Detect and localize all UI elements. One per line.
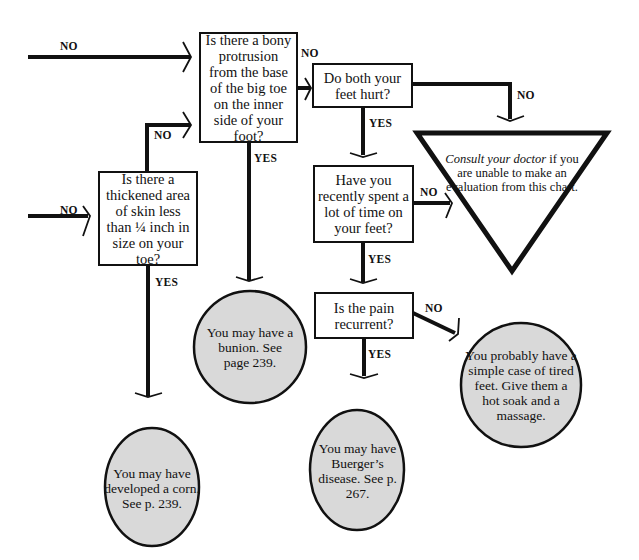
question-both-feet: Do both your feet hurt? <box>312 63 413 108</box>
consult-italic: Consult your doctor <box>445 152 546 166</box>
arrow-bothfeet-no <box>412 84 510 119</box>
outcome-corn-text: You may have developed a corn. See p. 23… <box>100 466 204 511</box>
question-bony-protrusion: Is there a bony protrusion from the base… <box>199 32 298 143</box>
label-yes-recurrent: YES <box>368 348 391 360</box>
question-time-on-feet: Have you recently spent a lot of time on… <box>313 165 414 243</box>
question-thickened-skin: Is there a thickened area of skin less t… <box>98 171 198 266</box>
question-thickened-skin-text: Is there a thickened area of skin less t… <box>103 171 193 267</box>
label-yes-thickened: YES <box>155 276 178 288</box>
label-no-recurrent: NO <box>425 302 443 314</box>
question-bony-protrusion-text: Is there a bony protrusion from the base… <box>204 32 293 144</box>
outcome-bunion: You may have a bunion. See page 239. <box>204 317 296 377</box>
question-both-feet-text: Do both your feet hurt? <box>317 70 408 102</box>
label-no-left-middle: NO <box>60 204 78 216</box>
label-no-both-feet: NO <box>517 89 535 101</box>
label-yes-bony: YES <box>254 152 277 164</box>
outcome-tired-feet-text: You probably have a simple case of tired… <box>465 348 577 423</box>
outcome-bunion-text: You may have a bunion. See page 239. <box>204 325 296 370</box>
label-no-time: NO <box>420 186 438 198</box>
label-yes-time: YES <box>368 253 391 265</box>
question-pain-recurrent: Is the pain recurrent? <box>314 292 414 339</box>
label-yes-both-feet: YES <box>369 117 392 129</box>
question-pain-recurrent-text: Is the pain recurrent? <box>319 300 409 332</box>
label-no-thickened: NO <box>154 129 172 141</box>
arrow-recurrent-no <box>413 313 455 333</box>
label-no-bony: NO <box>301 47 319 59</box>
outcome-corn: You may have developed a corn. See p. 23… <box>100 460 204 516</box>
consult-text: Consult your doctor if you are unable to… <box>444 152 580 194</box>
outcome-tired-feet: You probably have a simple case of tired… <box>465 345 577 425</box>
outcome-buerger: You may have Buerger’s disease. See p. 2… <box>310 446 405 496</box>
outcome-buerger-text: You may have Buerger’s disease. See p. 2… <box>310 441 405 501</box>
label-no-top-left: NO <box>60 40 78 52</box>
question-time-on-feet-text: Have you recently spent a lot of time on… <box>318 172 409 236</box>
